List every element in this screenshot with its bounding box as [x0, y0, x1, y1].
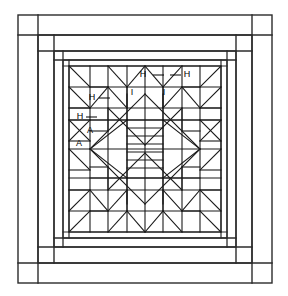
label-h-top-right: H	[184, 69, 191, 79]
label-h-top-left: H	[140, 69, 147, 79]
label-h-mid-left: H	[89, 92, 96, 102]
canvas-background	[0, 0, 288, 296]
quilt-block-diagram: H H I I H H A A	[0, 0, 288, 296]
label-h-low-left: H	[77, 111, 84, 121]
label-a-lower: A	[76, 138, 82, 148]
label-i-right: I	[163, 87, 166, 97]
label-a-upper: A	[87, 125, 93, 135]
quilt-block-canvas: H H I I H H A A	[0, 0, 288, 296]
label-i-left: I	[131, 87, 134, 97]
